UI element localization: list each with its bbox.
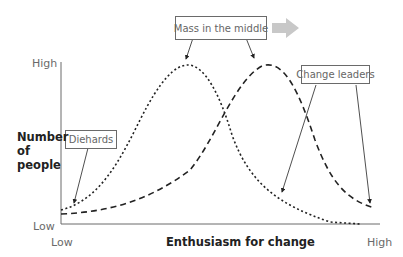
mass-callout: Mass in the middle <box>175 16 267 40</box>
y-axis-title: Number of people <box>17 131 69 172</box>
leaders-callout: Change leaders <box>301 65 370 84</box>
x-high-label: High <box>367 237 392 248</box>
diehards-arrow <box>74 148 88 203</box>
diehards-callout: Diehards <box>65 130 117 149</box>
y-low-label: Low <box>33 221 55 232</box>
mass-arrow-right <box>246 38 254 58</box>
y-axis-title-line2: of <box>17 145 69 159</box>
x-low-label: Low <box>51 237 73 248</box>
shift-arrow-icon <box>272 18 299 38</box>
y-high-label: High <box>32 58 57 69</box>
leaders-arrow-right <box>356 85 370 203</box>
y-axis-title-line1: Number <box>17 131 69 145</box>
mass-arrow-left <box>186 38 193 59</box>
leaders-arrow-left <box>282 85 316 192</box>
x-axis-title: Enthusiasm for change <box>166 236 315 250</box>
y-axis-title-line3: people <box>17 159 69 173</box>
